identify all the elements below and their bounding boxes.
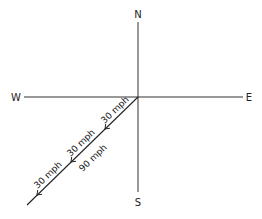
compass-label-south: S <box>135 197 141 208</box>
compass-label-west: W <box>11 92 21 103</box>
vector-diagram: N S W E 30 mph 30 mph 30 mph 90 mph <box>0 0 262 219</box>
southwest-vector-line <box>27 97 138 205</box>
compass-label-east: E <box>246 92 252 103</box>
compass-label-north: N <box>134 9 141 20</box>
vector-label-3: 30 mph <box>32 159 64 190</box>
vector-label-1: 30 mph <box>99 94 131 125</box>
